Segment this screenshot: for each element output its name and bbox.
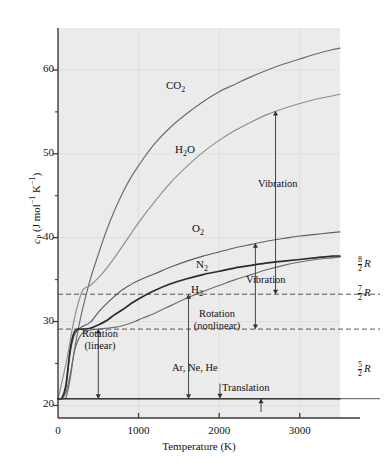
curve-label-n2: N2	[196, 258, 208, 273]
x-tick-label-2000: 2000	[197, 424, 241, 436]
ref-label-five-halves-r: 52R	[358, 361, 371, 378]
rotation-nonlinear-line1: Rotation	[199, 308, 235, 319]
h2-text: H2	[191, 283, 203, 295]
y-tick-label-30: 30	[30, 314, 54, 326]
fraction-7-2: 72	[358, 285, 362, 302]
annotation-vibration-upper: Vibration	[258, 178, 298, 190]
h2o-text: H2O	[175, 143, 195, 155]
annotation-vibration-lower: Vibration	[246, 274, 286, 286]
x-tick-label-0: 0	[36, 424, 80, 436]
co2-text: CO2	[166, 79, 185, 91]
curve-label-h2: H2	[191, 283, 203, 298]
x-axis-label: Temperature (K)	[58, 440, 340, 452]
y-axis-label: cP (J mol−1 K−1)	[28, 138, 45, 278]
n2-text: N2	[196, 258, 208, 270]
curve-label-h2o: H2O	[175, 143, 195, 158]
rotation-linear-line2: (linear)	[85, 340, 116, 351]
o2-text: O2	[192, 222, 204, 234]
annotation-rotation-nonlinear: Rotation (nonlinear)	[172, 308, 262, 332]
curve-label-o2: O2	[192, 222, 204, 237]
curve-label-ar-ne-he: Ar, Ne, He	[172, 362, 218, 373]
annotation-rotation-linear: Rotation (linear)	[62, 328, 138, 352]
rotation-nonlinear-line2: (nonlinear)	[194, 320, 241, 331]
y-tick-label-50: 50	[30, 146, 54, 158]
ref-label-seven-halves-r: 72R	[358, 285, 371, 302]
fraction-8-2: 82	[358, 256, 362, 273]
r-symbol-1: R	[364, 286, 371, 298]
ref-label-eight-halves-r: 82R	[358, 256, 371, 273]
annotation-translation: Translation	[222, 382, 269, 394]
y-tick-label-40: 40	[30, 230, 54, 242]
fraction-5-2: 52	[358, 361, 362, 378]
curve-label-co2: CO2	[166, 79, 185, 94]
y-tick-label-60: 60	[30, 62, 54, 74]
x-tick-label-3000: 3000	[278, 424, 322, 436]
r-symbol-0: R	[364, 257, 371, 269]
x-tick-label-1000: 1000	[117, 424, 161, 436]
y-tick-label-20: 20	[30, 397, 54, 409]
r-symbol-2: R	[364, 362, 371, 374]
rotation-linear-line1: Rotation	[82, 328, 118, 339]
